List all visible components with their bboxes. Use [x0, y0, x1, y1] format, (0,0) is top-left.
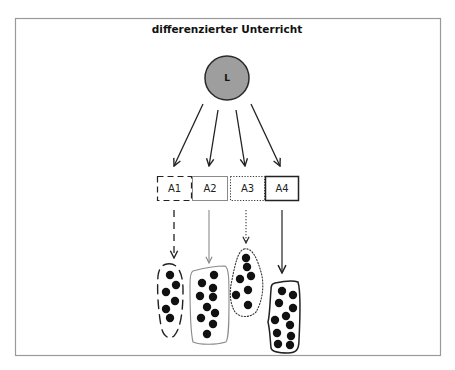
student-dot: [287, 332, 295, 340]
student-dot: [197, 314, 205, 322]
task-box-a1: A1: [158, 177, 192, 201]
student-dot: [274, 340, 282, 348]
task-box-label: A2: [203, 183, 216, 194]
student-dot: [209, 320, 217, 328]
student-dot: [243, 263, 251, 271]
student-dot: [198, 279, 206, 287]
student-dot: [171, 297, 179, 305]
student-dot: [166, 271, 174, 279]
student-dot: [172, 281, 180, 289]
student-dot: [162, 288, 170, 296]
student-dot: [203, 330, 211, 338]
task-box-a2: A2: [193, 177, 228, 201]
student-dot: [273, 329, 281, 337]
student-dot: [271, 316, 279, 324]
student-dot: [289, 304, 297, 312]
task-box-a4: A4: [266, 177, 299, 201]
student-dot: [289, 291, 297, 299]
student-dot: [247, 272, 255, 280]
student-dot: [203, 303, 211, 311]
diagram-title: differenzierter Unterricht: [152, 23, 302, 35]
task-box-label: A3: [241, 183, 254, 194]
student-dot: [282, 312, 290, 320]
teacher-node: L: [205, 56, 249, 100]
task-boxes: A1A2A3A4: [158, 177, 299, 201]
student-dot: [162, 305, 170, 313]
student-dot: [286, 321, 294, 329]
student-dot: [232, 291, 240, 299]
student-dot: [244, 301, 252, 309]
differentiated-teaching-diagram: differenzierter Unterricht L A1A2A3A4: [0, 0, 455, 370]
student-dot: [275, 299, 283, 307]
student-group-a4: [268, 281, 300, 353]
student-dot: [166, 314, 174, 322]
student-dot: [211, 309, 219, 317]
student-dot: [209, 284, 217, 292]
student-dot: [196, 292, 204, 300]
task-box-label: A1: [168, 183, 181, 194]
student-dot: [236, 275, 244, 283]
student-dot: [209, 293, 217, 301]
student-group-a2: [190, 266, 229, 344]
student-dot: [244, 286, 252, 294]
task-box-a3: A3: [231, 177, 265, 201]
student-dot: [286, 341, 294, 349]
student-dot: [210, 271, 218, 279]
teacher-label: L: [224, 73, 230, 83]
task-box-label: A4: [275, 183, 288, 194]
student-dot: [278, 287, 286, 295]
student-dot: [242, 254, 250, 262]
